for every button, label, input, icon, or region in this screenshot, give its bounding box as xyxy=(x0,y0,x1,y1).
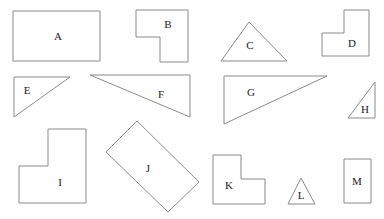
shape-outline-d xyxy=(322,10,369,56)
shape-label-g: G xyxy=(247,86,255,98)
shape-e: E xyxy=(14,77,70,117)
shape-a: A xyxy=(13,11,100,61)
shape-outline-e xyxy=(14,77,70,117)
shape-b: B xyxy=(136,10,188,62)
shapes-group: ABCDEFGHIJKLM xyxy=(13,10,375,212)
shapes-canvas: ABCDEFGHIJKLM xyxy=(0,0,384,219)
shape-c: C xyxy=(221,22,287,61)
shape-outline-f xyxy=(90,75,190,117)
shape-i: I xyxy=(19,129,86,203)
shape-outline-j xyxy=(106,121,199,212)
shape-label-i: I xyxy=(58,176,62,188)
shape-outline-i xyxy=(19,129,86,203)
shape-l: L xyxy=(288,178,315,204)
shape-label-h: H xyxy=(361,103,369,115)
shape-label-a: A xyxy=(54,30,62,42)
shape-k: K xyxy=(213,155,265,204)
shape-f: F xyxy=(90,75,190,117)
shape-j: J xyxy=(106,121,199,212)
shape-label-f: F xyxy=(158,88,164,100)
shape-label-c: C xyxy=(246,39,253,51)
shape-m: M xyxy=(344,159,371,203)
shapes-svg: ABCDEFGHIJKLM xyxy=(0,0,384,219)
shape-outline-g xyxy=(224,76,327,124)
shape-outline-b xyxy=(136,10,188,62)
shape-outline-k xyxy=(213,155,265,204)
shape-label-l: L xyxy=(298,189,305,201)
shape-label-e: E xyxy=(24,84,31,96)
shape-h: H xyxy=(348,82,375,118)
shape-g: G xyxy=(224,76,327,124)
shape-outline-c xyxy=(221,22,287,61)
shape-label-k: K xyxy=(225,179,233,191)
shape-label-d: D xyxy=(348,37,356,49)
shape-label-b: B xyxy=(164,18,171,30)
shape-d: D xyxy=(322,10,369,56)
shape-label-j: J xyxy=(146,162,151,174)
shape-label-m: M xyxy=(352,175,362,187)
